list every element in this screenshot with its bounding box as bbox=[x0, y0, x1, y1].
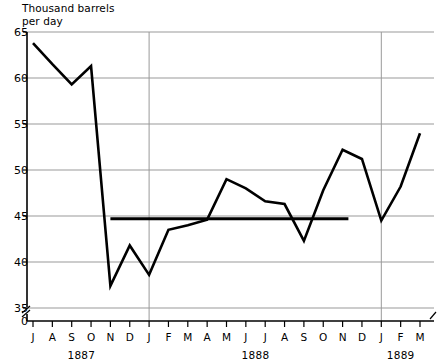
x-axis-label-16: N bbox=[334, 331, 352, 343]
x-axis-label-9: A bbox=[198, 331, 216, 343]
horizontal-gridlines bbox=[27, 32, 434, 308]
x-axis-label-12: J bbox=[256, 331, 274, 343]
x-axis-label-18: J bbox=[372, 331, 390, 343]
break-slash-3 bbox=[430, 312, 436, 319]
chart-root: Thousand barrels per day 656055504540350… bbox=[0, 0, 438, 363]
x-axis-label-7: F bbox=[159, 331, 177, 343]
axis-lines bbox=[23, 32, 434, 321]
x-axis-label-2: S bbox=[63, 331, 81, 343]
x-axis-label-15: O bbox=[314, 331, 332, 343]
x-axis-label-10: M bbox=[218, 331, 236, 343]
x-axis-label-6: J bbox=[140, 331, 158, 343]
x-axis-label-11: J bbox=[237, 331, 255, 343]
x-axis-label-4: N bbox=[101, 331, 119, 343]
x-axis-ticks bbox=[33, 321, 420, 327]
x-axis-label-13: A bbox=[276, 331, 294, 343]
x-axis-label-8: M bbox=[179, 331, 197, 343]
x-axis-label-20: M bbox=[411, 331, 429, 343]
data-series-line bbox=[33, 43, 420, 286]
x-axis-label-1: A bbox=[43, 331, 61, 343]
year-label-1889: 1889 bbox=[381, 349, 421, 361]
x-axis-label-17: D bbox=[353, 331, 371, 343]
plot-area bbox=[0, 0, 438, 363]
x-axis-label-19: F bbox=[392, 331, 410, 343]
year-label-1888: 1888 bbox=[236, 349, 276, 361]
vertical-gridlines bbox=[149, 32, 381, 321]
x-axis-label-3: O bbox=[82, 331, 100, 343]
year-label-1887: 1887 bbox=[61, 349, 101, 361]
x-axis-label-0: J bbox=[24, 331, 42, 343]
break-slash-2 bbox=[22, 310, 30, 317]
x-axis-label-14: S bbox=[295, 331, 313, 343]
break-slash-1 bbox=[22, 306, 30, 313]
series-production bbox=[33, 43, 420, 286]
x-axis-label-5: D bbox=[121, 331, 139, 343]
